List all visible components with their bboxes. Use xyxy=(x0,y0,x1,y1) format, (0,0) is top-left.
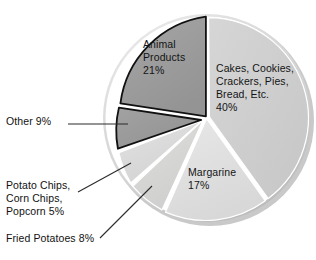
slice-label-cakes: Cakes, Cookies, Crackers, Pies, Bread, E… xyxy=(216,62,294,114)
leader-line-fried-potatoes xyxy=(100,186,152,238)
slice-label-margarine: Margarine 17% xyxy=(188,166,236,192)
slice-label-fried-potatoes: Fried Potatoes 8% xyxy=(6,232,94,245)
slice-label-animal-products: Animal Products 21% xyxy=(143,38,185,77)
slice-label-other: Other 9% xyxy=(6,115,51,128)
slice-label-potato-chips: Potato Chips, Corn Chips, Popcorn 5% xyxy=(6,179,70,218)
pie-chart: Other 9% Potato Chips, Corn Chips, Popco… xyxy=(0,0,316,260)
